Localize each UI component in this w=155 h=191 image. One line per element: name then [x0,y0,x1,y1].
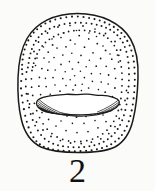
seed-body-fill [18,14,138,153]
seed-body-group [18,14,138,153]
figure-number-caption: 2 [0,152,155,190]
figure-plate: 2 [0,0,155,191]
